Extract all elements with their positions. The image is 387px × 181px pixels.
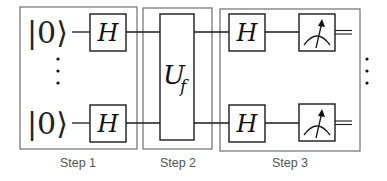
ellipsis-dot-left [56,57,59,60]
input-ket-bottom: |0⟩ [27,106,68,141]
quantum-circuit-diagram: |0⟩ |0⟩ H H U f H H Step 1 Step 2 Step 3 [0,0,387,181]
ellipsis-dot-right [365,57,368,60]
step-1-label: Step 1 [60,156,96,170]
svg-text:H: H [97,110,120,138]
input-ket-top: |0⟩ [27,15,68,50]
svg-text:H: H [236,19,259,47]
svg-text:H: H [236,110,259,138]
step-2-label: Step 2 [160,156,196,170]
step-3-label: Step 3 [272,156,308,170]
svg-text:H: H [97,19,120,47]
measurement-meter-icon-bottom [299,104,335,141]
measurement-meter-icon-top [299,14,335,51]
